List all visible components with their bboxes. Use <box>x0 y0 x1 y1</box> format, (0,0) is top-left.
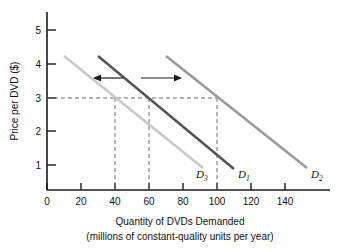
curve-label-d2-letter: D <box>310 168 319 180</box>
demand-shift-chart: 5 4 3 2 1 0 20 40 60 80 100 120 140 <box>0 0 337 252</box>
x-tick-label-140: 140 <box>277 196 294 207</box>
x-tick-label-80: 80 <box>177 196 189 207</box>
shift-arrows-group <box>93 75 182 82</box>
x-tick-label-40: 40 <box>109 196 121 207</box>
curve-label-d1-subscript: 1 <box>246 174 250 183</box>
y-axis-title: Price per DVD ($) <box>9 62 20 141</box>
axes-group <box>47 12 330 190</box>
curve-labels-group: D3 D1 D2 <box>195 168 323 183</box>
curve-label-d2-subscript: 2 <box>319 174 323 183</box>
y-axis-ticks: 5 4 3 2 1 <box>35 25 56 171</box>
y-tick-label-4: 4 <box>35 59 41 70</box>
x-axis-subtitle: (millions of constant-quality units per … <box>86 231 273 242</box>
y-tick-label-3: 3 <box>35 93 41 104</box>
curve-label-d2: D2 <box>310 168 323 183</box>
y-tick-label-1: 1 <box>35 160 41 171</box>
x-tick-label-60: 60 <box>143 196 155 207</box>
demand-curve-d3 <box>64 56 203 168</box>
x-axis-ticks: 0 20 40 60 80 100 120 140 <box>44 183 294 207</box>
curve-label-d1: D1 <box>237 168 250 183</box>
y-tick-label-2: 2 <box>35 126 41 137</box>
x-tick-label-0: 0 <box>44 196 50 207</box>
demand-curve-d2 <box>166 56 307 168</box>
x-tick-label-120: 120 <box>243 196 260 207</box>
curve-label-d3-subscript: 3 <box>203 174 208 183</box>
x-tick-label-20: 20 <box>75 196 87 207</box>
demand-curves-group <box>64 56 307 169</box>
y-tick-label-5: 5 <box>35 25 41 36</box>
axis-titles-group: Price per DVD ($) Quantity of DVDs Deman… <box>9 62 274 242</box>
demand-curve-d1 <box>98 56 234 169</box>
right-shift-arrow-head <box>174 75 182 82</box>
demand-curve-figure: 5 4 3 2 1 0 20 40 60 80 100 120 140 <box>0 0 337 252</box>
x-tick-label-100: 100 <box>209 196 226 207</box>
curve-label-d1-letter: D <box>237 168 246 180</box>
x-axis-title: Quantity of DVDs Demanded <box>116 216 245 227</box>
curve-label-d3: D3 <box>195 168 208 183</box>
curve-label-d3-letter: D <box>195 168 204 180</box>
